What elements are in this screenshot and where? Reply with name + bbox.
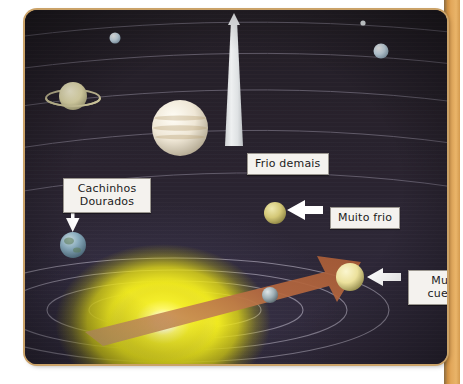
solar-system-illustration: Cachinhos Dourados Frio demais Muito fri… bbox=[25, 10, 447, 364]
page-root: Cachinhos Dourados Frio demais Muito fri… bbox=[0, 0, 463, 384]
callout-muito-quente: Muito cuente bbox=[408, 270, 447, 305]
callout-cachinhos-dourados: Cachinhos Dourados bbox=[63, 178, 151, 213]
callout-frio-demais: Frio demais bbox=[247, 153, 329, 175]
page-edge-strip bbox=[447, 0, 460, 384]
callout-muito-frio: Muito frio bbox=[330, 207, 400, 229]
